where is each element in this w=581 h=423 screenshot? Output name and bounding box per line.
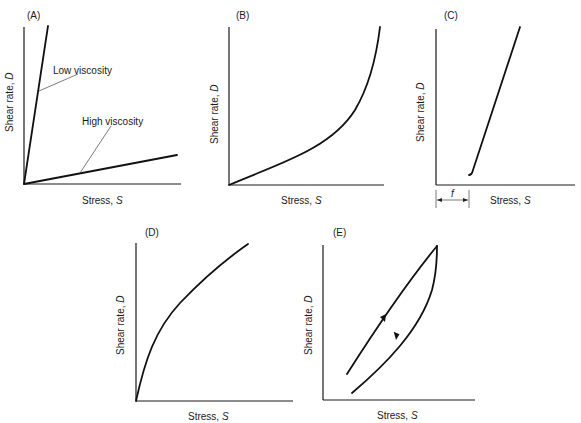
panel-b-label: (B) (236, 10, 249, 21)
panel-c-f-arrow-right-icon (463, 198, 468, 202)
panel-c-x-label-text: Stress, (490, 195, 524, 206)
panel-d-y-label: Shear rate, D (115, 296, 126, 356)
panel-a-y-label-text: Shear rate, (4, 80, 15, 132)
panel-e-up-arrow-icon (393, 332, 400, 340)
panel-e: (E) Stress, S Shear rate, D (303, 227, 475, 421)
panel-b-x-label-text: Stress, (281, 195, 315, 206)
high-viscosity-annotation: High viscosity (82, 116, 143, 127)
panel-e-y-label: Shear rate, D (303, 296, 314, 356)
panel-b-y-label-text: Shear rate, (209, 92, 220, 144)
panel-e-x-label: Stress, S (377, 410, 418, 421)
panel-c-y-label-text: Shear rate, (415, 90, 426, 142)
panel-e-y-var: D (303, 296, 314, 303)
panel-b-x-label: Stress, S (281, 195, 322, 206)
panel-d-x-label: Stress, S (188, 411, 229, 422)
panel-d-x-label-text: Stress, (188, 411, 222, 422)
panel-a-y-var: D (4, 73, 15, 80)
panel-a-y-label: Shear rate, D (4, 73, 15, 133)
panel-a: (A) Low viscosity High viscosity Stress,… (4, 10, 181, 206)
panel-a-x-label: Stress, S (82, 195, 123, 206)
panel-a-low-leader (39, 74, 78, 91)
panel-b-y-label: Shear rate, D (209, 85, 220, 145)
panel-c-y-label: Shear rate, D (415, 83, 426, 143)
panel-d-curve (136, 244, 248, 401)
panel-c-f-arrow-left-icon (437, 198, 442, 202)
panel-d: (D) Stress, S Shear rate, D (115, 227, 293, 422)
panel-a-low-viscosity-line (24, 26, 48, 184)
panel-c-x-label: Stress, S (490, 195, 531, 206)
panel-e-x-label-text: Stress, (377, 410, 411, 421)
panel-c-label: (C) (444, 10, 458, 21)
panel-e-label: (E) (333, 227, 346, 238)
panel-e-x-var: S (411, 410, 418, 421)
panel-a-high-leader (80, 126, 111, 173)
panel-e-up-curve (352, 246, 437, 393)
panel-d-y-label-text: Shear rate, (115, 303, 126, 355)
panel-d-x-var: S (222, 411, 229, 422)
panel-d-y-var: D (115, 296, 126, 303)
panel-b-y-var: D (209, 85, 220, 92)
panel-c: (C) f Stress, S Shear rate, D (415, 10, 575, 208)
panel-b-x-var: S (315, 195, 322, 206)
panel-c-yield-label: f (451, 188, 455, 199)
low-viscosity-annotation: Low viscosity (53, 65, 112, 76)
panel-a-x-var: S (116, 195, 123, 206)
panel-a-high-viscosity-line (24, 155, 177, 184)
panel-e-y-label-text: Shear rate, (303, 303, 314, 355)
panel-d-label: (D) (145, 227, 159, 238)
panel-a-label: (A) (27, 10, 40, 21)
panel-b: (B) Stress, S Shear rate, D (209, 10, 384, 206)
rheogram-figure: (A) Low viscosity High viscosity Stress,… (0, 0, 581, 423)
panel-b-curve (229, 27, 380, 185)
panel-c-y-var: D (415, 83, 426, 90)
panel-c-x-var: S (524, 195, 531, 206)
panel-a-x-label-text: Stress, (82, 195, 116, 206)
panel-c-curve (469, 27, 520, 175)
